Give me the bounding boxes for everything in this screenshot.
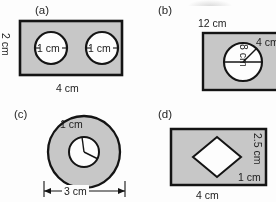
panel-d-height-label: 2.5 cm xyxy=(252,133,264,165)
panel-b-height-label: 8 cm xyxy=(238,44,250,67)
panel-a-label: (a) xyxy=(35,4,49,16)
panel-d-label: (d) xyxy=(158,108,172,120)
panel-c-label: (c) xyxy=(14,108,27,120)
panel-a-height-label: 2 cm xyxy=(0,33,12,56)
panel-a-hole-1-label: 1 cm xyxy=(37,42,60,54)
panel-c-hole-label: 1 cm xyxy=(60,118,83,130)
panel-c: (c) 1 cm 3 cm xyxy=(0,101,138,202)
panel-b-label: (b) xyxy=(158,4,172,16)
panel-c-width-label: 3 cm xyxy=(62,185,89,197)
panel-a-hole-2-label: 1 cm xyxy=(88,42,111,54)
panel-a: (a) 1 cm 1 cm 2 cm 4 cm xyxy=(0,0,138,101)
panel-b-hole-label: 4 cm xyxy=(256,36,276,48)
panel-d: (d) 1 cm 2.5 cm 4 cm xyxy=(138,101,276,202)
panel-d-width-label: 4 cm xyxy=(196,189,219,201)
figure-sheet: (a) 1 cm 1 cm 2 cm 4 cm (b) 12 cm 4 xyxy=(0,0,276,202)
panel-b-width-label: 12 cm xyxy=(198,17,227,29)
panel-b: (b) 12 cm 4 cm 8 cm xyxy=(138,0,276,101)
panel-d-hole-label: 1 cm xyxy=(238,171,261,183)
panel-a-width-label: 4 cm xyxy=(56,82,79,94)
